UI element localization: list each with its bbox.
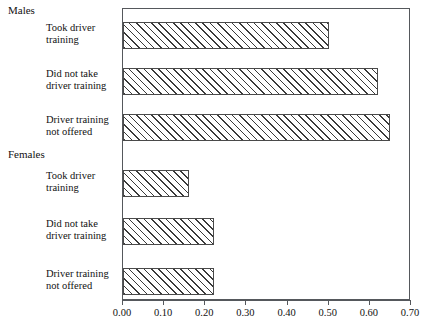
x-axis-line — [122, 300, 410, 301]
x-tick-label-6: 0.60 — [360, 307, 378, 319]
x-tick-mark-5 — [328, 300, 329, 305]
x-tick-mark-0 — [122, 300, 123, 305]
x-tick-label-3: 0.30 — [236, 307, 254, 319]
label-line-1: Took driver — [46, 22, 95, 33]
label-line-1: Took driver — [46, 170, 95, 181]
bar-males-not-offered — [123, 114, 390, 141]
bar-chart: Males Females Took driver training Did n… — [0, 0, 425, 323]
label-line-1: Did not take — [46, 218, 98, 229]
category-label-females-took-training: Took driver training — [46, 170, 122, 194]
category-label-females-no-training: Did not take driver training — [46, 218, 122, 242]
bar-females-no-training — [123, 218, 214, 245]
category-label-males-no-training: Did not take driver training — [46, 68, 122, 92]
x-tick-label-4: 0.40 — [277, 307, 295, 319]
x-tick-label-7: 0.70 — [401, 307, 419, 319]
category-label-females-not-offered: Driver training not offered — [46, 268, 122, 292]
label-line-2: driver training — [46, 230, 106, 241]
label-line-2: not offered — [46, 280, 92, 291]
label-line-1: Did not take — [46, 68, 98, 79]
x-tick-label-2: 0.20 — [195, 307, 213, 319]
x-tick-mark-3 — [245, 300, 246, 305]
bar-males-no-training — [123, 68, 378, 95]
category-label-males-took-training: Took driver training — [46, 22, 122, 46]
x-tick-label-0: 0.00 — [113, 307, 131, 319]
x-tick-mark-6 — [369, 300, 370, 305]
x-tick-mark-7 — [410, 300, 411, 305]
x-tick-mark-2 — [204, 300, 205, 305]
bar-males-took-training — [123, 22, 329, 49]
group-header-males: Males — [8, 4, 35, 16]
plot-area — [122, 8, 410, 300]
x-tick-label-1: 0.10 — [154, 307, 172, 319]
bar-females-not-offered — [123, 268, 214, 295]
label-line-2: training — [46, 182, 79, 193]
label-line-2: training — [46, 34, 79, 45]
x-tick-label-5: 0.50 — [319, 307, 337, 319]
x-tick-mark-4 — [287, 300, 288, 305]
group-header-females: Females — [8, 148, 45, 160]
category-label-males-not-offered: Driver training not offered — [46, 114, 122, 138]
x-tick-mark-1 — [163, 300, 164, 305]
label-line-2: not offered — [46, 126, 92, 137]
label-line-1: Driver training — [46, 114, 109, 125]
label-line-1: Driver training — [46, 268, 109, 279]
label-line-2: driver training — [46, 80, 106, 91]
bar-females-took-training — [123, 170, 189, 197]
